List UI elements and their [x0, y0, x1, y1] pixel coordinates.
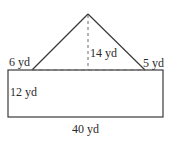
- triangle-right-side: [88, 14, 145, 70]
- composite-figure: 6 yd 14 yd 5 yd 12 yd 40 yd: [0, 0, 170, 144]
- triangle-left-side: [32, 14, 88, 70]
- label-rectangle-width: 40 yd: [72, 123, 99, 135]
- label-left-segment: 6 yd: [9, 56, 30, 68]
- label-triangle-height: 14 yd: [90, 47, 117, 59]
- label-rectangle-height: 12 yd: [10, 86, 37, 98]
- label-right-segment: 5 yd: [143, 57, 164, 69]
